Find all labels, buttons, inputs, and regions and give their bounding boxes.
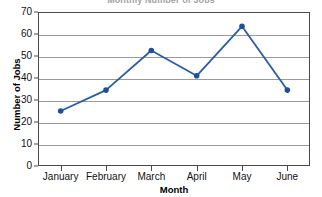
x-axis-tick-labels: JanuaryFebruaryMarchAprilMayJune bbox=[0, 0, 322, 197]
x-axis-tick-label: June bbox=[276, 171, 298, 182]
x-axis-tick-label: April bbox=[187, 171, 207, 182]
x-axis-tick-label: March bbox=[137, 171, 165, 182]
x-axis-tick-label: February bbox=[86, 171, 126, 182]
x-axis-tick-label: May bbox=[233, 171, 252, 182]
x-axis-tick-label: January bbox=[43, 171, 79, 182]
line-chart: Monthly Number of Jobs 010203040506070 N… bbox=[0, 0, 322, 197]
x-axis-title: Month bbox=[38, 184, 310, 195]
